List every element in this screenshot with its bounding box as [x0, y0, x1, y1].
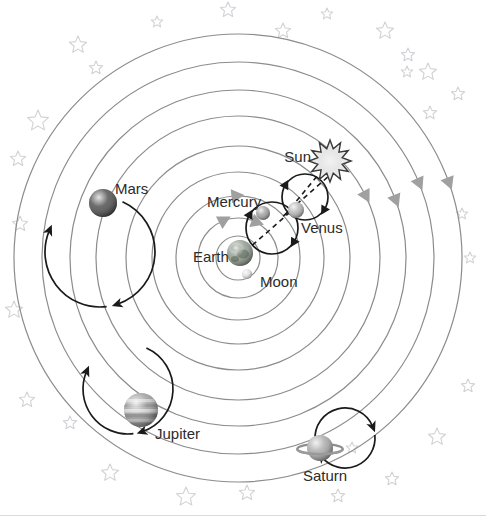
mars-body [89, 189, 117, 217]
star-icon [19, 392, 34, 406]
star-icon [63, 416, 76, 429]
earth-body [227, 240, 253, 266]
label-mercury: Mercury [207, 193, 262, 210]
star-icon [12, 216, 27, 230]
orbit-direction-arrow-icon [441, 175, 459, 192]
sun-core [319, 150, 341, 172]
star-icon [176, 487, 195, 505]
star-icon [321, 8, 332, 19]
label-venus: Venus [301, 219, 343, 236]
star-icon [275, 23, 290, 37]
star-icon [69, 36, 86, 52]
label-sun: Sun [284, 148, 311, 165]
star-icon [451, 87, 464, 100]
solar-system-svg: SunMercuryVenusEarthMoonMarsJupiterSatur… [0, 0, 486, 516]
star-icon [28, 110, 49, 130]
star-icon [419, 63, 436, 79]
star-icon [428, 428, 445, 444]
label-saturn: Saturn [303, 467, 347, 484]
solar-system-figure: SunMercuryVenusEarthMoonMarsJupiterSatur… [0, 0, 486, 516]
moon-body [242, 269, 252, 279]
label-mars: Mars [115, 180, 148, 197]
star-icon [464, 252, 475, 263]
orbit-direction-arrow-icon [357, 188, 375, 206]
star-icon [220, 2, 235, 16]
star-icon [401, 66, 412, 77]
star-icon [151, 16, 162, 27]
star-icon [101, 464, 118, 480]
epicycle-orbit [83, 348, 173, 434]
star-icon [10, 151, 25, 165]
orbit-direction-arrow-icon [216, 210, 234, 228]
star-icon [423, 106, 436, 119]
label-earth: Earth [193, 248, 229, 265]
star-icon [461, 379, 474, 392]
star-icon [89, 61, 102, 74]
star-icon [331, 489, 344, 502]
jupiter-body [124, 393, 158, 427]
star-icon [376, 22, 393, 38]
label-jupiter: Jupiter [155, 425, 200, 442]
star-icon [401, 48, 414, 61]
label-moon: Moon [260, 273, 298, 290]
star-icon [239, 485, 254, 499]
orbit-direction-arrow-icon [411, 175, 429, 193]
star-icon [385, 472, 398, 485]
saturn-body [297, 435, 343, 461]
orbit-direction-arrow-icon [387, 192, 405, 209]
venus-body [288, 202, 304, 218]
